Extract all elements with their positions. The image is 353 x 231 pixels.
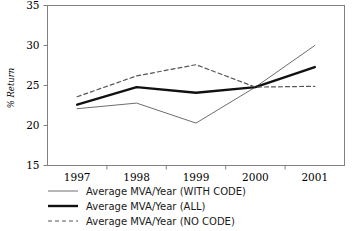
y-tick-label: 30 [26,39,39,51]
x-tick-label: 1997 [64,171,91,183]
legend-label: Average MVA/Year (ALL) [86,201,206,212]
line-chart: 1520253035 19971998199920002001 % Return… [0,0,353,231]
y-tick-label: 35 [26,0,39,11]
x-tick-label: 1999 [183,171,210,183]
x-tick-label: 1998 [123,171,150,183]
chart-figure: 1520253035 19971998199920002001 % Return… [0,0,353,231]
y-tick-label: 20 [26,119,39,131]
legend-label: Average MVA/Year (NO CODE) [86,216,235,227]
y-axis-title: % Return [6,68,16,109]
x-tick-label: 2000 [242,171,269,183]
legend-label: Average MVA/Year (WITH CODE) [86,186,246,197]
y-tick-label: 15 [26,159,39,171]
y-tick-label: 25 [26,79,39,91]
x-tick-label: 2001 [301,171,328,183]
